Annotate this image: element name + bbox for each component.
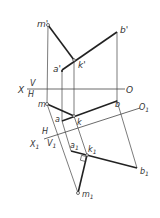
label-v: V (30, 79, 36, 88)
label-v1: V1 (47, 139, 56, 149)
label-o1: O1 (139, 103, 149, 113)
label-b1: b1 (140, 167, 149, 177)
label-o: O (126, 85, 133, 95)
label-k-prime: k' (78, 60, 86, 70)
label-k: k (77, 118, 82, 127)
label-x: X (17, 85, 25, 95)
label-m-prime: m' (37, 19, 48, 29)
label-m1: m1 (82, 190, 94, 200)
label-k1: k1 (88, 145, 96, 155)
label-h2: H (42, 127, 48, 136)
label-h: H (28, 90, 34, 99)
label-m: m (38, 100, 46, 109)
object-lines (47, 25, 137, 193)
label-a-prime: a' (53, 64, 61, 74)
projection-diagram: m' b' a' k' X V H O m a k b O1 H X1 V1 a… (0, 0, 160, 218)
label-b-prime: b' (120, 25, 128, 35)
label-b: b (115, 100, 120, 109)
label-a1: a1 (70, 141, 79, 151)
label-a: a (55, 115, 60, 124)
label-x1: X1 (29, 140, 39, 150)
